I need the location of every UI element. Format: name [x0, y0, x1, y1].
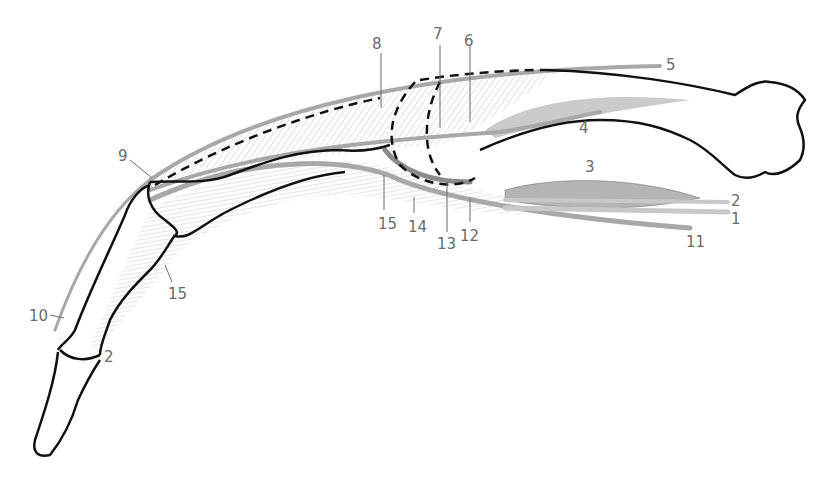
muscle-3	[505, 181, 700, 208]
label-2-distal: 2	[104, 350, 114, 365]
label-15: 15	[378, 217, 397, 232]
joint-dip	[60, 350, 100, 359]
label-9: 9	[118, 149, 128, 164]
label-6: 6	[464, 34, 474, 49]
tendon-2	[505, 200, 728, 202]
label-5: 5	[666, 58, 676, 73]
label-8: 8	[372, 37, 382, 52]
label-2: 2	[731, 194, 741, 209]
label-15-distal: 15	[168, 287, 187, 302]
distal-phalanx	[34, 352, 100, 456]
label-10: 10	[29, 309, 48, 324]
label-14: 14	[408, 220, 427, 235]
label-1: 1	[731, 212, 741, 227]
label-4: 4	[579, 121, 589, 136]
label-7: 7	[433, 27, 443, 42]
label-13: 13	[437, 237, 456, 252]
label-12: 12	[460, 229, 479, 244]
label-3: 3	[585, 160, 595, 175]
label-11: 11	[686, 235, 705, 250]
